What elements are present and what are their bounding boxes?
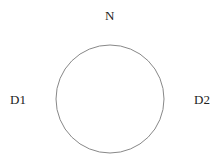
label-n: N xyxy=(105,9,114,22)
label-d2: D2 xyxy=(194,93,210,106)
diagram-canvas xyxy=(0,0,221,164)
label-d1: D1 xyxy=(10,93,26,106)
circle-node xyxy=(56,45,164,153)
